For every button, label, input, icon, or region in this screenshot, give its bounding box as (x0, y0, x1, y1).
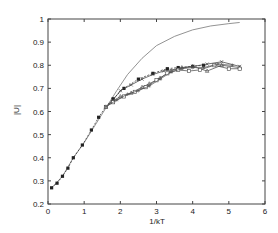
data-point-marker (66, 167, 69, 170)
y-tick-label: 0.8 (33, 61, 45, 70)
data-point-marker (187, 69, 190, 72)
data-point-marker (238, 67, 241, 70)
data-point-marker (130, 83, 133, 86)
x-tick-label: 6 (263, 207, 268, 216)
data-point-marker (72, 156, 75, 159)
data-point-marker (115, 98, 119, 102)
data-point-marker (55, 182, 58, 185)
x-tick-label: 2 (118, 207, 123, 216)
y-axis-label: |U| (12, 105, 21, 115)
data-point-marker (50, 186, 53, 189)
x-tick-label: 5 (227, 207, 232, 216)
x-tick-label: 0 (46, 207, 51, 216)
y-tick-label: 0.2 (33, 200, 45, 209)
y-tick-label: 1 (40, 15, 45, 24)
plot-frame (48, 19, 265, 204)
data-point-marker (158, 77, 162, 81)
data-point-marker (137, 89, 141, 93)
y-tick-label: 0.3 (33, 177, 45, 186)
data-point-marker (147, 84, 151, 88)
x-tick-label: 3 (154, 207, 159, 216)
data-point-marker (169, 70, 173, 74)
series-sim-triangles (104, 63, 241, 108)
series-theory (52, 22, 240, 187)
data-point-marker (202, 66, 206, 70)
data-point-marker (180, 67, 184, 71)
x-tick-label: 4 (190, 207, 195, 216)
series-sim-stars (104, 62, 234, 108)
y-tick-label: 0.6 (33, 108, 45, 117)
chart-canvas: 0123456 0.20.30.40.50.60.70.80.91 1/kT |… (0, 0, 278, 233)
data-point-marker (90, 128, 93, 131)
data-point-marker (227, 67, 230, 70)
axis-ticks (48, 19, 265, 204)
series-layer (50, 22, 241, 189)
y-tick-label: 0.5 (33, 131, 45, 140)
data-point-marker (81, 143, 84, 146)
data-point-marker (166, 67, 169, 70)
data-point-marker (231, 63, 235, 67)
series-sim-crosses (104, 60, 241, 108)
x-tick-label: 1 (82, 207, 87, 216)
data-point-marker (216, 62, 220, 66)
data-point-marker (191, 66, 195, 70)
y-tick-labels: 0.20.30.40.50.60.70.80.91 (33, 15, 45, 209)
y-tick-label: 0.9 (33, 38, 45, 47)
data-point-marker (126, 92, 130, 96)
x-axis-label: 1/kT (149, 217, 165, 226)
y-tick-label: 0.4 (33, 154, 45, 163)
x-tick-labels: 0123456 (46, 207, 268, 216)
data-point-marker (104, 105, 108, 109)
data-point-marker (97, 116, 100, 119)
data-point-marker (198, 68, 201, 71)
y-tick-label: 0.7 (33, 84, 45, 93)
data-point-marker (61, 175, 64, 178)
series-sim-filled-squares (50, 64, 205, 190)
